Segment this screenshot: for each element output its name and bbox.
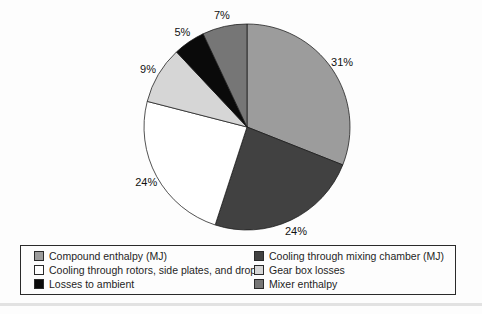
legend-swatch-icon [254,251,264,261]
legend-item-mixer-enthalpy: Mixer enthalpy [254,278,453,290]
slice-percentage-label: 31% [331,56,353,68]
legend-label: Gear box losses [269,264,345,276]
slice-percentage-label: 7% [214,9,230,21]
legend-label: Compound enthalpy (MJ) [49,250,167,262]
chart-legend: Compound enthalpy (MJ) Cooling through m… [20,245,456,295]
legend-swatch-icon [34,251,44,261]
legend-item-rotors-side-plates: Cooling through rotors, side plates, and… [34,264,254,276]
legend-item-mixing-chamber: Cooling through mixing chamber (MJ) [254,250,453,262]
legend-swatch-icon [254,279,264,289]
slice-percentage-label: 24% [135,176,157,188]
legend-label: Cooling through rotors, side plates, and… [49,264,254,276]
slice-percentage-label: 5% [174,26,190,38]
slice-percentage-label: 24% [285,225,307,237]
legend-swatch-icon [254,265,264,275]
legend-swatch-icon [34,265,44,275]
legend-swatch-icon [34,279,44,289]
legend-label: Mixer enthalpy [269,278,337,290]
legend-item-losses-ambient: Losses to ambient [34,278,254,290]
legend-label: Cooling through mixing chamber (MJ) [269,250,444,262]
legend-label: Losses to ambient [49,278,134,290]
slice-percentage-label: 9% [140,63,156,75]
legend-item-gear-box: Gear box losses [254,264,453,276]
pie-chart: 31%24%24%9%5%7% [0,0,482,246]
legend-item-compound-enthalpy: Compound enthalpy (MJ) [34,250,254,262]
scan-artifact-line [0,303,482,306]
scanned-pie-chart-page: 31%24%24%9%5%7% Compound enthalpy (MJ) C… [0,0,482,314]
